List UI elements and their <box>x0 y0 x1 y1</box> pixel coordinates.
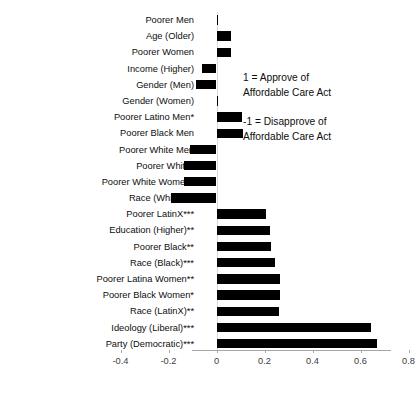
x-tick-label: 0.8 <box>389 356 420 366</box>
x-tick-mark <box>409 350 410 353</box>
disapprove-annotation-line1: -1 = Disapprove of <box>243 114 331 129</box>
bar-row <box>0 303 410 319</box>
x-tick-label: 0.6 <box>341 356 381 366</box>
bar-row <box>0 44 410 60</box>
bar <box>217 15 218 24</box>
x-tick-label: 0.4 <box>293 356 333 366</box>
x-tick-mark <box>169 350 170 353</box>
bar <box>217 258 276 267</box>
bar <box>171 193 217 202</box>
bar-row <box>0 93 410 109</box>
bar-row <box>0 61 410 77</box>
approve-annotation: 1 = Approve of Affordable Care Act <box>243 70 331 100</box>
bar <box>184 161 217 170</box>
bar-row <box>0 239 410 255</box>
bar-row <box>0 158 410 174</box>
bar-row <box>0 190 410 206</box>
bar <box>196 80 217 89</box>
bar <box>217 290 281 299</box>
plot-area <box>0 12 410 348</box>
bar-row <box>0 142 410 158</box>
bar-row <box>0 255 410 271</box>
approve-annotation-line1: 1 = Approve of <box>243 70 331 85</box>
bar-row <box>0 174 410 190</box>
x-tick-mark <box>265 350 266 353</box>
bar-row <box>0 109 410 125</box>
disapprove-annotation-line2: Affordable Care Act <box>243 129 331 144</box>
bar <box>217 96 218 105</box>
x-tick-mark <box>361 350 362 353</box>
bar-row <box>0 12 410 28</box>
bar-row <box>0 125 410 141</box>
bar <box>217 274 281 283</box>
bar-row <box>0 206 410 222</box>
bar <box>217 226 270 235</box>
bar-row <box>0 271 410 287</box>
x-tick-mark <box>121 350 122 353</box>
bar <box>217 112 243 121</box>
bar-row <box>0 222 410 238</box>
bar-row <box>0 28 410 44</box>
bar <box>217 31 232 40</box>
x-tick-label: 0.2 <box>245 356 285 366</box>
bar <box>217 209 267 218</box>
x-tick-label: 0 <box>197 356 237 366</box>
bar <box>217 307 280 316</box>
x-tick-mark <box>217 350 218 353</box>
bar-row <box>0 287 410 303</box>
bar <box>217 339 377 348</box>
bar <box>217 323 372 332</box>
bar <box>217 48 232 57</box>
x-tick-mark <box>313 350 314 353</box>
bar <box>202 64 217 73</box>
approve-annotation-line2: Affordable Care Act <box>243 85 331 100</box>
x-tick-label: -0.4 <box>101 356 141 366</box>
bar-row <box>0 77 410 93</box>
bar <box>184 177 217 186</box>
bar <box>190 145 217 154</box>
x-tick-label: -0.2 <box>149 356 189 366</box>
disapprove-annotation: -1 = Disapprove of Affordable Care Act <box>243 114 331 144</box>
bar <box>217 242 272 251</box>
bar-row <box>0 320 410 336</box>
bar <box>217 129 244 138</box>
